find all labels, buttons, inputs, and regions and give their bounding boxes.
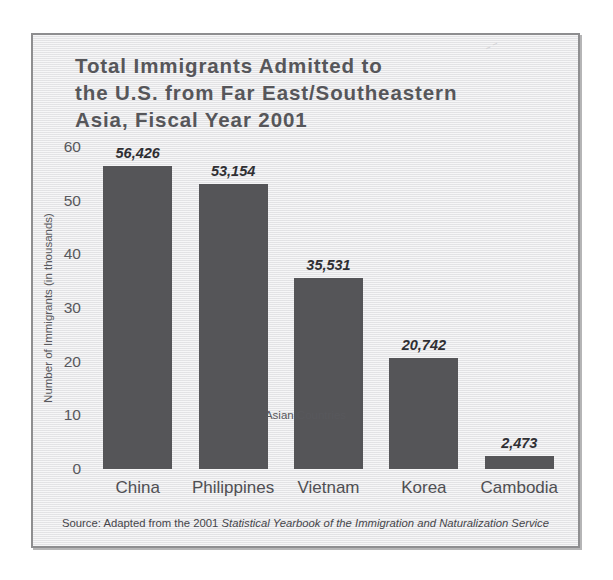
y-axis-tick-20: 20 [64,353,81,371]
x-axis-title: Asian Countries [33,409,578,421]
bar-china[interactable] [103,166,172,469]
x-axis-category-philippines: Philippines [192,478,274,498]
y-axis-tick-40: 40 [64,245,81,263]
bar-cambodia[interactable] [485,456,554,469]
source-note-italic: Statistical Yearbook of the Immigration … [221,517,549,529]
chart-title-line-1: Total Immigrants Admitted to [75,52,535,79]
chart-figure-frame: Total Immigrants Admitted to the U.S. fr… [31,33,580,548]
source-note-prefix: Source: Adapted from the 2001 [62,517,222,529]
chart-title-line-2: the U.S. from Far East/Southeastern [75,79,535,106]
y-axis-title: Number of Immigrants (in thousands) [42,213,54,403]
x-axis-category-korea: Korea [401,478,446,498]
y-axis-tick-60: 60 [64,138,81,156]
chart-title: Total Immigrants Admitted to the U.S. fr… [75,52,535,133]
bar-value-vietnam: 35,531 [306,257,350,273]
bar-value-philippines: 53,154 [211,163,255,179]
x-axis-category-vietnam: Vietnam [297,478,359,498]
x-axis-category-china: China [115,478,159,498]
x-axis-category-cambodia: Cambodia [481,478,559,498]
bar-philippines[interactable] [199,184,268,469]
y-axis-tick-30: 30 [64,299,81,317]
y-axis-tick-0: 0 [72,460,81,478]
y-axis-tick-50: 50 [64,192,81,210]
bar-value-korea: 20,742 [402,337,446,353]
bar-vietnam[interactable] [294,278,363,469]
bar-value-china: 56,426 [116,145,160,161]
chart-title-line-3: Asia, Fiscal Year 2001 [75,106,535,133]
source-note: Source: Adapted from the 2001 Statistica… [33,517,578,529]
bar-value-cambodia: 2,473 [501,435,537,451]
